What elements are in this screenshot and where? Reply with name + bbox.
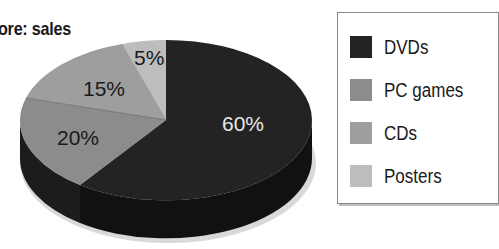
- legend-label: DVDs: [384, 36, 428, 59]
- swatch-posters: [350, 165, 372, 187]
- legend-item-posters: Posters: [350, 164, 452, 188]
- legend-label: Posters: [384, 165, 442, 188]
- legend-label: CDs: [384, 122, 417, 145]
- legend-item-dvds: DVDs: [350, 35, 436, 59]
- legend-label: PC games: [384, 79, 463, 102]
- legend-item-cds: CDs: [350, 121, 423, 145]
- swatch-cds: [350, 122, 372, 144]
- swatch-dvds: [350, 36, 372, 58]
- swatch-pc-games: [350, 79, 372, 101]
- legend-item-pc-games: PC games: [350, 78, 477, 102]
- label-cds: 15%: [83, 77, 125, 100]
- label-posters: 5%: [134, 46, 164, 69]
- label-pc-games: 20%: [57, 126, 99, 149]
- label-dvds: 60%: [222, 112, 264, 135]
- chart-legend: DVDs PC games CDs Posters: [337, 12, 499, 204]
